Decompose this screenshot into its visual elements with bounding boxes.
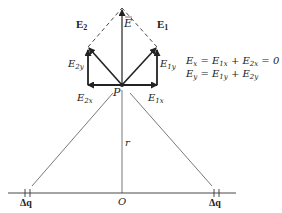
label-dq-right: Δq [209,197,221,208]
label-e: E [123,17,132,30]
label-e2y: E2y [67,58,85,71]
equation-ex: Ex = E1x + E2x = 0 [185,55,280,68]
label-e1: E1 [157,18,168,32]
label-o: O [118,196,126,207]
field-diagram: E E1 E2 E1y E2y E1x E2x P r O Δq Δq Ex =… [0,0,282,213]
e1-arrow [122,48,156,85]
label-dq-left: Δq [20,197,32,208]
e2-arrow [89,48,122,85]
equation-ey: Ey = E1y + E2y [185,68,259,81]
label-e1y: E1y [159,58,177,71]
label-r: r [125,137,131,148]
label-e2: E2 [76,18,87,32]
label-e2x: E2x [76,92,93,105]
geometry-lines [32,90,212,193]
label-p: P [112,86,121,99]
point-p [120,83,124,87]
label-e1x: E1x [147,92,164,105]
